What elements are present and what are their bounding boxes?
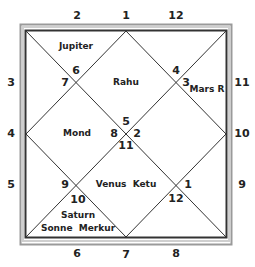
planet-rahu: Rahu xyxy=(113,78,139,87)
sign-number-6: 6 xyxy=(72,65,80,76)
sign-number-2: 2 xyxy=(133,128,141,139)
sign-number-10: 10 xyxy=(70,194,85,205)
outer-number-right-bottom: 9 xyxy=(238,179,246,190)
planet-sonne-merkur: Sonne Merkur xyxy=(41,224,115,233)
planet-saturn: Saturn xyxy=(61,211,95,220)
sign-number-7: 7 xyxy=(61,77,69,88)
planet-jupiter: Jupiter xyxy=(59,42,93,51)
sign-number-9: 9 xyxy=(61,179,69,190)
sign-number-12: 12 xyxy=(168,193,183,204)
outer-number-bottom-right: 8 xyxy=(172,248,180,259)
planet-mond: Mond xyxy=(63,129,91,138)
outer-number-bottom-center: 7 xyxy=(122,249,130,260)
outer-number-left-bottom: 5 xyxy=(7,179,15,190)
planet-mars: Mars R xyxy=(190,85,225,94)
sign-number-5: 5 xyxy=(122,116,130,127)
outer-number-top-left: 2 xyxy=(73,10,81,21)
sign-number-11: 11 xyxy=(118,140,133,151)
outer-number-bottom-left: 6 xyxy=(73,248,81,259)
outer-number-left-top: 3 xyxy=(7,77,15,88)
planet-venus-ketu: Venus Ketu xyxy=(96,180,157,189)
outer-number-top-right: 12 xyxy=(168,10,183,21)
sign-number-4: 4 xyxy=(172,65,180,76)
sign-number-1: 1 xyxy=(184,179,192,190)
outer-number-right-middle: 10 xyxy=(234,128,249,139)
sign-number-8: 8 xyxy=(110,128,118,139)
outer-number-right-top: 11 xyxy=(234,77,249,88)
outer-number-left-middle: 4 xyxy=(7,128,15,139)
kundli-chart xyxy=(0,0,255,267)
outer-number-top-center: 1 xyxy=(122,10,130,21)
